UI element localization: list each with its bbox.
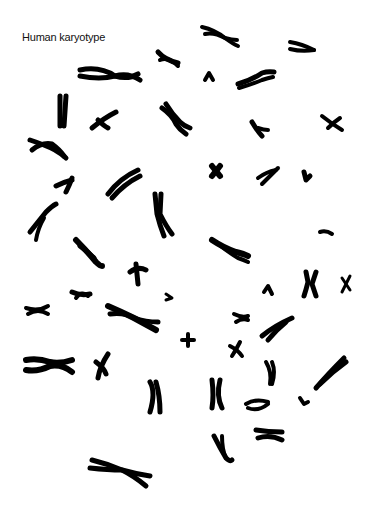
- chromosome: [238, 72, 274, 88]
- chromosome: [155, 194, 172, 236]
- chromosome: [130, 264, 146, 284]
- chromosome: [108, 306, 158, 330]
- chromosome: [72, 292, 90, 298]
- chromosome: [262, 318, 292, 340]
- chromosome: [30, 204, 56, 240]
- chromosome: [150, 382, 160, 412]
- chromosome: [316, 358, 346, 388]
- chromosome: [342, 276, 350, 292]
- chromosome: [322, 116, 342, 130]
- chromosome: [182, 334, 194, 346]
- chromosome-spread: [0, 0, 373, 514]
- chromosome: [214, 436, 232, 461]
- chromosome: [256, 430, 282, 440]
- chromosome: [56, 178, 72, 192]
- chromosome: [60, 96, 66, 126]
- chromosome: [76, 240, 102, 266]
- chromosome: [96, 354, 108, 378]
- karyotype-figure: Human karyotype: [0, 0, 373, 514]
- chromosome: [26, 359, 72, 372]
- chromosome: [212, 240, 248, 262]
- chromosome: [166, 294, 172, 300]
- chromosome: [234, 314, 248, 322]
- chromosome: [264, 286, 272, 294]
- chromosome: [92, 112, 116, 128]
- chromosome: [205, 73, 213, 80]
- chromosome: [30, 140, 66, 158]
- chromosome: [304, 272, 316, 296]
- chromosome: [108, 170, 140, 198]
- chromosome: [290, 42, 314, 51]
- chromosome: [266, 362, 274, 384]
- chromosome: [320, 231, 332, 234]
- chromosome: [230, 342, 242, 356]
- chromosome: [158, 52, 178, 66]
- chromosome: [26, 306, 48, 314]
- chromosome: [246, 400, 268, 409]
- chromosome: [258, 168, 278, 184]
- chromosome: [252, 122, 268, 136]
- chromosome: [80, 69, 140, 80]
- chromosome: [162, 104, 190, 134]
- chromosome: [90, 460, 150, 486]
- chromosome: [304, 172, 310, 180]
- chromosome: [212, 380, 222, 408]
- chromosome: [300, 398, 308, 404]
- chromosome: [202, 27, 238, 46]
- chromosome: [212, 166, 220, 176]
